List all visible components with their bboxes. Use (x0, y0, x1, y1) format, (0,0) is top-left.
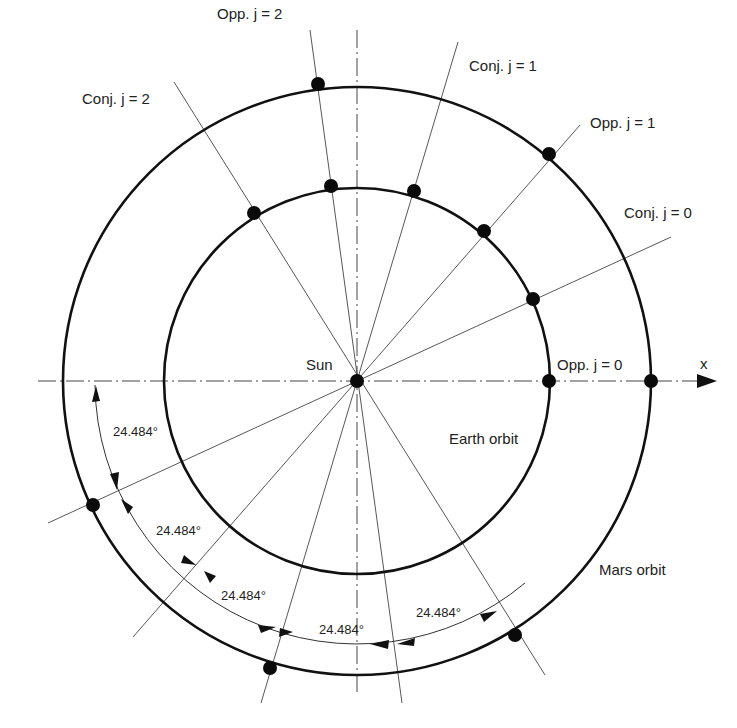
arrow-icon (92, 386, 100, 402)
label-x-axis: x (700, 355, 708, 372)
mars-earth-synodic-diagram: Opp. j = 2 Conj. j = 2 Conj. j = 1 Opp. … (0, 0, 737, 728)
earth-point-conj-j2 (247, 206, 261, 220)
mars-point-conj-j1 (263, 661, 277, 675)
angle-label-4: 24.484° (319, 622, 364, 637)
label-opp-j2: Opp. j = 2 (217, 5, 282, 22)
arrow-icon (121, 499, 133, 514)
sun-dot (350, 374, 364, 388)
label-opp-j1: Opp. j = 1 (590, 114, 655, 131)
mars-point-opp-j0 (644, 374, 658, 388)
mars-point-conj-j2 (508, 628, 522, 642)
ray-conj-j1 (261, 42, 458, 703)
label-earth-orbit: Earth orbit (449, 430, 519, 447)
earth-point-opp-j2 (324, 179, 338, 193)
arrow-icon (181, 555, 196, 565)
x-axis-arrow-icon (697, 374, 717, 388)
mars-point-opp-j1 (542, 147, 556, 161)
label-opp-j0: Opp. j = 0 (557, 356, 622, 373)
earth-point-opp-j1 (477, 224, 491, 238)
label-sun: Sun (306, 356, 333, 373)
angle-label-3: 24.484° (221, 588, 266, 603)
earth-point-conj-j0 (526, 292, 540, 306)
label-mars-orbit: Mars orbit (599, 561, 667, 578)
earth-point-opp-j0 (542, 374, 556, 388)
angle-label-2: 24.484° (156, 523, 201, 538)
mars-point-conj-j0 (86, 498, 100, 512)
arrow-icon (370, 640, 389, 649)
label-conj-j1: Conj. j = 1 (469, 57, 537, 74)
mars-point-opp-j2 (311, 77, 325, 91)
angle-label-5: 24.484° (416, 605, 461, 620)
angle-label-1: 24.484° (113, 424, 158, 439)
position-dots (86, 77, 658, 675)
arrow-icon (110, 472, 119, 490)
earth-point-conj-j1 (407, 184, 421, 198)
label-conj-j0: Conj. j = 0 (624, 204, 692, 221)
label-conj-j2: Conj. j = 2 (82, 90, 150, 107)
arrow-icon (258, 625, 276, 633)
arrow-icon (204, 571, 216, 583)
